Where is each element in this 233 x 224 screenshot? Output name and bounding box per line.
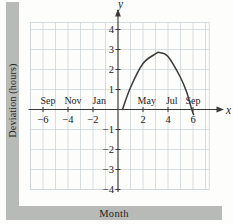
month-label: Jul [166, 95, 178, 106]
y-tick-label: 2 [109, 64, 114, 75]
x-tick-label: −2 [87, 114, 98, 125]
month-label: Jan [93, 95, 106, 106]
plot-canvas: xy−6−4−22464321−1−2−3−4SepNovJanMayJulSe… [0, 0, 233, 224]
deviation-curve [123, 52, 194, 114]
y-tick-label: 1 [109, 84, 114, 95]
y-tick-label: −1 [103, 124, 114, 135]
y-axis-arrow [115, 9, 121, 17]
y-tick-label: −3 [103, 164, 114, 175]
y-tick-label: 3 [109, 44, 114, 55]
grid-border [31, 23, 210, 190]
month-label: Nov [64, 95, 81, 106]
x-caption-bar: Month [6, 206, 222, 220]
x-axis-arrow [217, 107, 225, 113]
y-tick-label: −4 [103, 184, 115, 195]
x-tick-label: 4 [165, 114, 171, 125]
y-axis-letter: y [117, 0, 124, 11]
x-tick-label: −4 [62, 114, 74, 125]
x-tick-label: −6 [37, 114, 48, 125]
y-tick-label: 4 [109, 24, 115, 35]
month-label: May [138, 95, 156, 106]
x-tick-label: 6 [190, 114, 195, 125]
grid-lines [31, 23, 210, 190]
deviation-graph-figure: Deviation (hours) xy−6−4−22464321−1−2−3−… [0, 0, 233, 224]
y-tick-label: −2 [103, 144, 114, 155]
month-label: Sep [41, 95, 56, 106]
x-axis-caption: Month [99, 208, 129, 219]
x-tick-label: 2 [140, 114, 145, 125]
x-axis-letter: x [225, 104, 232, 116]
